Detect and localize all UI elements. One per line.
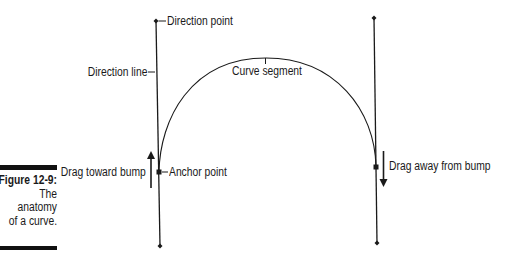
arrow-up-icon bbox=[147, 151, 155, 188]
anchor-point-label: Anchor point bbox=[169, 165, 227, 179]
drag-away-from-bump-label: Drag away from bump bbox=[389, 159, 491, 173]
curve-diagram bbox=[0, 0, 509, 260]
right-direction-line bbox=[374, 18, 377, 243]
caption-line: anatomy bbox=[0, 201, 57, 215]
caption-line: of a curve. bbox=[0, 215, 57, 229]
anchor-point-icon bbox=[374, 165, 379, 170]
curve-segment-label: Curve segment bbox=[232, 64, 302, 78]
anchor-point-icon bbox=[157, 170, 162, 175]
caption-bottom-rule bbox=[0, 246, 57, 250]
left-direction-line bbox=[156, 21, 160, 246]
caption-top-rule bbox=[0, 165, 57, 170]
caption-line: The bbox=[0, 188, 57, 202]
direction-point-icon bbox=[372, 16, 377, 21]
direction-line-label: Direction line bbox=[87, 65, 147, 79]
direction-point-label: Direction point bbox=[167, 14, 233, 28]
figure-caption: Figure 12-9: The anatomy of a curve. bbox=[0, 174, 57, 228]
drag-toward-bump-label: Drag toward bump bbox=[61, 165, 146, 179]
direction-point-icon bbox=[154, 19, 159, 24]
arrow-down-icon bbox=[380, 151, 388, 187]
direction-point-icon bbox=[158, 244, 163, 249]
direction-point-icon bbox=[375, 241, 380, 246]
figure-number: Figure 12-9: bbox=[0, 174, 57, 188]
